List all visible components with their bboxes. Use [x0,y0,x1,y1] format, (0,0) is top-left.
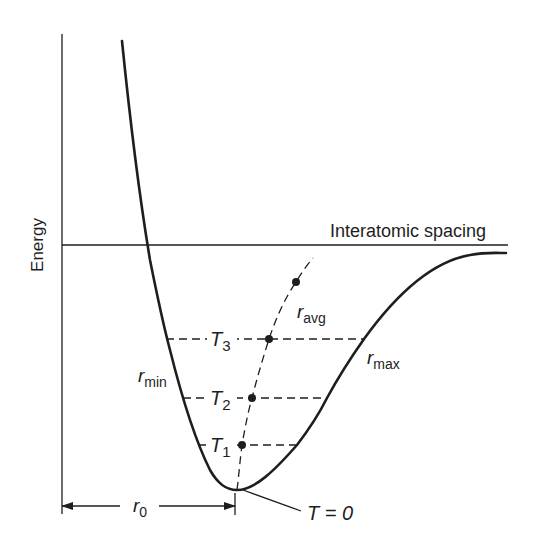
t0-label: T = 0 [307,502,353,524]
r-avg-point-t3 [265,335,273,343]
r-avg-point-t1 [238,441,246,449]
r-avg-point-top [292,278,300,286]
r-avg-locus [237,258,313,490]
energy-axis-label: Energy [28,218,47,272]
spacing-axis-label: Interatomic spacing [330,221,486,241]
t0-leader-line [243,490,301,511]
r-max-label: rmax [367,347,400,372]
r-avg-label: ravg [297,301,326,326]
r0-label: r0 [133,495,147,520]
r-min-label: rmin [138,365,167,390]
potential-energy-diagram: Energy Interatomic spacing ravg rmax rmi… [0,0,538,545]
r-avg-point-t2 [248,394,256,402]
potential-curve [122,41,506,490]
